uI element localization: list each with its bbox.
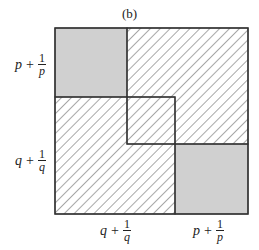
label-plus: + [204,223,212,239]
label-var: q [100,223,107,239]
square-diagram [0,0,259,250]
label-var: q [15,153,22,169]
label-var: p [193,223,200,239]
fraction: 1 q [38,148,46,173]
label-plus: + [111,223,119,239]
label-bottom-right: p + 1 p [193,218,224,243]
label-plus: + [26,153,34,169]
label-var: p [15,57,22,73]
label-left-top: p + 1 p [15,52,46,77]
fraction: 1 p [38,52,46,77]
shaded-square-bottom-right [175,144,248,214]
label-plus: + [26,57,34,73]
fraction-denominator: q [124,231,130,243]
label-left-bottom: q + 1 q [15,148,46,173]
shaded-square-top-left [55,28,127,97]
fraction-denominator: q [39,161,45,173]
fraction-denominator: p [217,231,223,243]
fraction: 1 q [123,218,131,243]
label-bottom-left: q + 1 q [100,218,131,243]
fraction-denominator: p [39,65,45,77]
fraction: 1 p [216,218,224,243]
